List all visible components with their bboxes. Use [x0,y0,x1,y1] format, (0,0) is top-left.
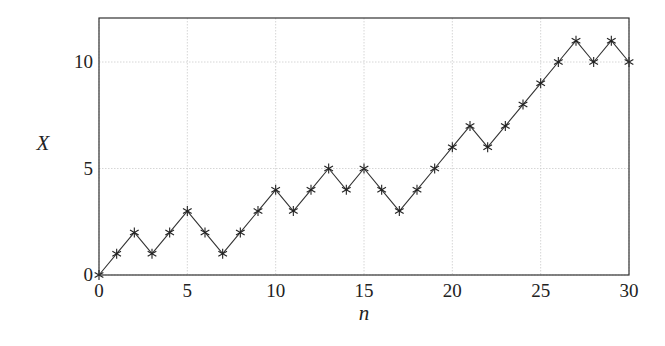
grid-lines [99,18,629,275]
plot-frame [99,18,629,275]
x-tick-label: 10 [266,280,285,301]
x-axis-label: n [359,301,370,325]
y-tick-label: 0 [84,264,94,285]
x-tick-label: 0 [94,280,104,301]
x-tick-label: 5 [183,280,193,301]
x-tick-label: 30 [620,280,639,301]
y-tick-label: 10 [74,51,93,72]
y-tick-label: 5 [84,158,94,179]
x-tick-label: 20 [443,280,462,301]
line-chart: 0510152025300510 n X [0,0,665,346]
y-axis-label: X [36,131,51,155]
tick-labels: 0510152025300510 [74,51,639,301]
x-tick-label: 15 [355,280,374,301]
x-tick-label: 25 [531,280,550,301]
